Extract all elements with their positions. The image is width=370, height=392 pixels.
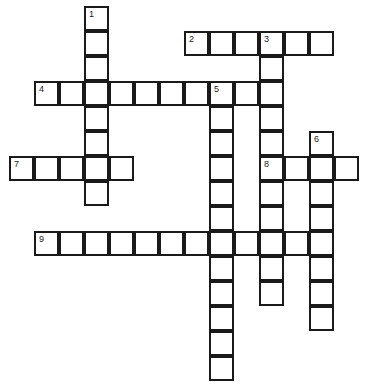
crossword-cell[interactable]: 4: [34, 81, 59, 106]
crossword-cell[interactable]: [259, 256, 284, 281]
crossword-cell[interactable]: [309, 256, 334, 281]
crossword-cell[interactable]: [234, 31, 259, 56]
crossword-cell[interactable]: [234, 81, 259, 106]
crossword-cell[interactable]: [259, 281, 284, 306]
crossword-cell[interactable]: [284, 156, 309, 181]
crossword-cell[interactable]: [259, 106, 284, 131]
clue-number: 7: [14, 159, 19, 169]
crossword-cell[interactable]: [209, 281, 234, 306]
crossword-cell[interactable]: [134, 81, 159, 106]
crossword-cell[interactable]: [309, 31, 334, 56]
crossword-cell[interactable]: [309, 206, 334, 231]
clue-number: 4: [39, 84, 44, 94]
crossword-cell[interactable]: 2: [184, 31, 209, 56]
crossword-cell[interactable]: [309, 231, 334, 256]
crossword-cell[interactable]: [209, 331, 234, 356]
crossword-cell[interactable]: [84, 231, 109, 256]
crossword-cell[interactable]: [209, 106, 234, 131]
clue-number: 9: [39, 234, 44, 244]
crossword-cell[interactable]: [184, 81, 209, 106]
crossword-cell[interactable]: [209, 131, 234, 156]
crossword-cell[interactable]: [59, 156, 84, 181]
crossword-cell[interactable]: [209, 306, 234, 331]
crossword-cell[interactable]: 3: [259, 31, 284, 56]
crossword-cell[interactable]: 9: [34, 231, 59, 256]
crossword-cell[interactable]: [259, 181, 284, 206]
crossword-cell[interactable]: [234, 231, 259, 256]
crossword-cell[interactable]: [84, 31, 109, 56]
crossword-cell[interactable]: [84, 156, 109, 181]
crossword-cell[interactable]: [59, 231, 84, 256]
crossword-cell[interactable]: [159, 231, 184, 256]
crossword-cell[interactable]: [209, 356, 234, 381]
crossword-cell[interactable]: [109, 231, 134, 256]
crossword-cell[interactable]: 6: [309, 131, 334, 156]
clue-number: 2: [189, 34, 194, 44]
crossword-cell[interactable]: [84, 56, 109, 81]
crossword-cell[interactable]: [34, 156, 59, 181]
crossword-cell[interactable]: [259, 231, 284, 256]
crossword-cell[interactable]: [59, 81, 84, 106]
crossword-cell[interactable]: 7: [9, 156, 34, 181]
crossword-cell[interactable]: [84, 181, 109, 206]
crossword-cell[interactable]: [209, 31, 234, 56]
crossword-cell[interactable]: [284, 231, 309, 256]
crossword-cell[interactable]: [334, 156, 359, 181]
clue-number: 1: [89, 9, 94, 19]
crossword-cell[interactable]: [309, 306, 334, 331]
clue-number: 5: [214, 84, 219, 94]
crossword-cell[interactable]: [309, 181, 334, 206]
crossword-cell[interactable]: [259, 131, 284, 156]
crossword-cell[interactable]: [84, 106, 109, 131]
clue-number: 8: [264, 159, 269, 169]
crossword-grid: 123845679: [0, 0, 370, 392]
crossword-cell[interactable]: [259, 56, 284, 81]
crossword-cell[interactable]: [284, 31, 309, 56]
crossword-cell[interactable]: [134, 231, 159, 256]
crossword-cell[interactable]: [209, 231, 234, 256]
crossword-cell[interactable]: 8: [259, 156, 284, 181]
crossword-cell[interactable]: [184, 231, 209, 256]
crossword-cell[interactable]: [209, 256, 234, 281]
crossword-cell[interactable]: [159, 81, 184, 106]
crossword-cell[interactable]: 5: [209, 81, 234, 106]
crossword-cell[interactable]: [109, 156, 134, 181]
crossword-cell[interactable]: [259, 81, 284, 106]
crossword-cell[interactable]: 1: [84, 6, 109, 31]
crossword-cell[interactable]: [209, 206, 234, 231]
crossword-cell[interactable]: [209, 181, 234, 206]
clue-number: 6: [314, 134, 319, 144]
crossword-cell[interactable]: [209, 156, 234, 181]
crossword-cell[interactable]: [309, 281, 334, 306]
crossword-cell[interactable]: [84, 131, 109, 156]
crossword-cell[interactable]: [84, 81, 109, 106]
crossword-cell[interactable]: [309, 156, 334, 181]
crossword-cell[interactable]: [259, 206, 284, 231]
crossword-cell[interactable]: [109, 81, 134, 106]
clue-number: 3: [264, 34, 269, 44]
